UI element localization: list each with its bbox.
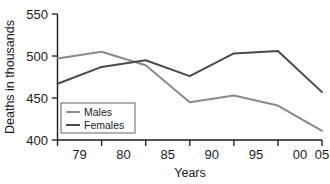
x-tick-label: 00 [293,147,307,162]
chart-canvas: 550 500 450 400 Deaths in thousands 79 8… [0,0,330,184]
legend-label-females: Females [84,119,124,131]
x-tick-label: 95 [249,147,263,162]
x-tick-label: 80 [116,147,130,162]
line-chart: 550 500 450 400 Deaths in thousands 79 8… [0,0,330,184]
x-tick-label: 05 [315,147,329,162]
series-line-females [58,51,323,92]
x-tick-label: 85 [160,147,174,162]
y-tick-label: 500 [26,49,48,64]
legend-label-males: Males [84,106,112,118]
y-axis-title: Deaths in thousands [3,20,17,134]
x-axis-title: Years [174,166,206,180]
y-tick-label: 450 [26,91,48,106]
x-axis-tick-labels: 79 80 85 90 95 00 05 [72,147,329,162]
y-axis-ticks [52,14,58,140]
x-tick-label: 90 [205,147,219,162]
x-axis-ticks [58,140,323,146]
chart-legend: Males Females [61,103,135,133]
y-tick-label: 400 [26,133,48,148]
y-axis-tick-labels: 550 500 450 400 [26,7,48,148]
x-tick-label: 79 [72,147,86,162]
y-tick-label: 550 [26,7,48,22]
